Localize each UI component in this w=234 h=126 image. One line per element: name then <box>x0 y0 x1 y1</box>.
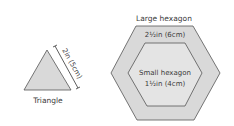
small-hexagon-label: Small hexagon <box>139 69 191 77</box>
small-hexagon-dimension-label: 1½in (4cm) <box>145 80 186 88</box>
shape-diagram: 2in (5cm) Triangle Large hexagon 2½in (6… <box>0 0 234 126</box>
triangle-label: Triangle <box>32 96 63 105</box>
triangle-dimension-label: 2in (5cm) <box>60 47 83 81</box>
large-hexagon-dimension-label: 2½in (6cm) <box>145 31 186 39</box>
large-hexagon-label: Large hexagon <box>136 14 192 23</box>
